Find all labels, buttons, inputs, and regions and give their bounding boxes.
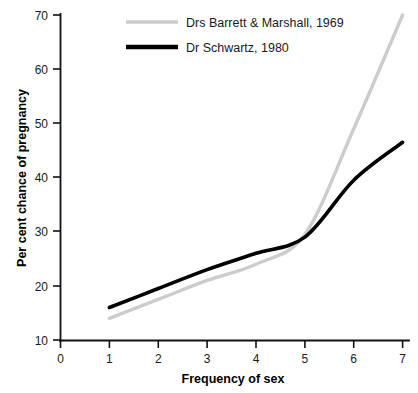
x-tick-label-5: 5 <box>302 352 309 366</box>
legend-item-barrett-marshall: Drs Barrett & Marshall, 1969 <box>126 16 344 30</box>
x-tick-label-4: 4 <box>253 352 260 366</box>
x-axis-title: Frequency of sex <box>182 372 285 386</box>
x-tick-label-6: 6 <box>350 352 357 366</box>
legend-item-schwartz: Dr Schwartz, 1980 <box>126 41 289 55</box>
legend-label-barrett-marshall: Drs Barrett & Marshall, 1969 <box>186 16 344 30</box>
x-tick-label-0: 0 <box>57 352 64 366</box>
x-tick-label-7: 7 <box>399 352 406 366</box>
x-axis: 0 1 2 3 4 5 6 7 Frequency of sex <box>57 341 409 387</box>
y-axis-title: Per cent chance of pregnancy <box>15 89 29 267</box>
y-axis: 70 60 50 40 30 20 10 Per cent chance of … <box>15 9 61 348</box>
series-line-schwartz <box>109 142 402 307</box>
x-tick-label-1: 1 <box>106 352 113 366</box>
y-tick-label-60: 60 <box>35 63 49 77</box>
y-tick-label-20: 20 <box>35 280 49 294</box>
y-tick-label-10: 10 <box>35 334 49 348</box>
x-tick-label-3: 3 <box>204 352 211 366</box>
y-tick-label-50: 50 <box>35 117 49 131</box>
pregnancy-chance-line-chart: Drs Barrett & Marshall, 1969 Dr Schwartz… <box>0 0 418 393</box>
chart-canvas: Drs Barrett & Marshall, 1969 Dr Schwartz… <box>0 0 418 393</box>
legend-label-schwartz: Dr Schwartz, 1980 <box>186 41 289 55</box>
plot-series-group <box>109 15 402 318</box>
x-tick-label-2: 2 <box>155 352 162 366</box>
series-line-barrett-marshall <box>109 15 402 318</box>
y-tick-label-30: 30 <box>35 225 49 239</box>
y-tick-label-40: 40 <box>35 171 49 185</box>
chart-legend: Drs Barrett & Marshall, 1969 Dr Schwartz… <box>126 16 344 55</box>
y-tick-label-70: 70 <box>35 9 49 23</box>
